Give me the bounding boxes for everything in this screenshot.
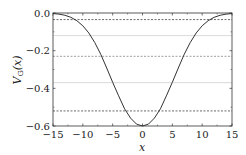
series-line — [53, 14, 232, 126]
data-series — [53, 14, 232, 126]
reference-lines — [53, 20, 232, 111]
y-axis-label: VG(x) — [11, 55, 25, 84]
y-axis-ticks: 0.0−0.2−0.4−0.6 — [26, 8, 232, 132]
x-tick-label: 5 — [169, 129, 175, 140]
x-axis-ticks: −15−10−5051015 — [42, 13, 238, 140]
y-tick-label: −0.2 — [26, 45, 50, 56]
x-tick-label: −5 — [105, 129, 120, 140]
chart-container: −15−10−5051015 0.0−0.2−0.4−0.6 x VG(x) — [0, 0, 246, 155]
y-tick-label: −0.6 — [26, 121, 50, 132]
plot-frame — [53, 13, 232, 126]
x-tick-label: 10 — [196, 129, 209, 140]
line-chart: −15−10−5051015 0.0−0.2−0.4−0.6 x VG(x) — [0, 0, 246, 155]
y-tick-label: −0.4 — [26, 83, 50, 94]
x-axis-label: x — [139, 141, 146, 154]
x-tick-label: 15 — [226, 129, 239, 140]
y-tick-label: 0.0 — [34, 8, 50, 19]
x-tick-label: 0 — [139, 129, 145, 140]
x-tick-label: −10 — [72, 129, 93, 140]
